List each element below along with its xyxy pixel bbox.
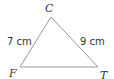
vertex-label-c: C xyxy=(45,3,53,14)
side-length-ct: 9 cm xyxy=(80,37,105,47)
vertex-label-t: T xyxy=(100,70,107,79)
vertex-label-f: F xyxy=(9,68,17,79)
triangle-diagram: C F T 7 cm 9 cm xyxy=(0,0,114,79)
side-length-cf: 7 cm xyxy=(7,37,32,47)
